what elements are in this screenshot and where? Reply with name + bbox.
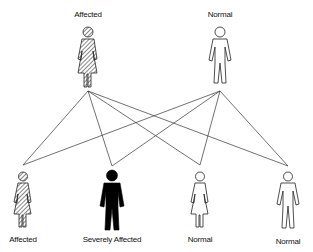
child-severely-affected-male-icon <box>100 170 124 230</box>
parent-1-label: Affected <box>74 10 102 19</box>
child-2-label: Severely Affected <box>83 235 142 244</box>
child-normal-male-icon <box>277 172 299 228</box>
child-normal-female-icon <box>191 172 208 227</box>
diagram-svg <box>0 0 313 252</box>
parent-affected-female-icon <box>78 27 97 87</box>
parent-2-label: Normal <box>208 10 233 19</box>
child-affected-female-icon <box>14 172 31 227</box>
child-1-label: Affected <box>9 235 37 244</box>
connection-lines <box>23 91 288 166</box>
parent-normal-male-icon <box>209 27 231 83</box>
pedigree-diagram: Affected Normal Affected Severely Affect… <box>0 0 313 252</box>
child-3-label: Normal <box>188 235 213 244</box>
child-4-label: Normal <box>276 237 301 246</box>
